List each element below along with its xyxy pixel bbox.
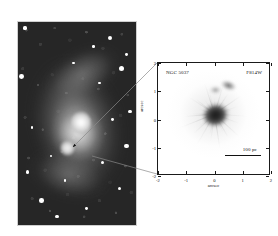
x-axis-title: arcsec [157, 183, 270, 188]
scale-bar-line [225, 155, 261, 156]
nuclear-knot [60, 140, 74, 156]
y-tick-label: 2 [149, 61, 156, 66]
wide-field-galaxy-image [17, 21, 137, 226]
x-tick-top [186, 63, 187, 66]
x-tick-top [215, 63, 216, 66]
y-tick-right [266, 91, 269, 92]
x-tick [186, 171, 187, 174]
y-tick [158, 148, 161, 149]
x-tick [243, 171, 244, 174]
field-star [125, 53, 128, 56]
y-tick-right [266, 176, 269, 177]
galaxy-nucleus [71, 111, 91, 133]
field-star [72, 62, 74, 64]
field-star [124, 144, 128, 148]
field-star [98, 82, 101, 85]
x-tick-top [243, 63, 244, 66]
y-tick-label: 0 [149, 117, 156, 122]
field-star [118, 187, 121, 190]
field-star [111, 118, 114, 121]
filter-name-label: F814W [246, 70, 262, 75]
y-tick-label: -1 [149, 145, 156, 150]
y-tick-right [266, 63, 269, 64]
y-tick [158, 176, 161, 177]
x-tick [158, 171, 159, 174]
y-axis-title: arcsec [139, 101, 144, 112]
x-tick [271, 171, 272, 174]
x-tick-label: 2 [270, 178, 272, 183]
scale-bar-label: 100 pc [243, 147, 257, 152]
y-tick-label: -2 [149, 174, 156, 179]
y-tick-label: 1 [149, 89, 156, 94]
field-star [128, 110, 132, 114]
y-tick-right [266, 148, 269, 149]
y-tick [158, 63, 161, 64]
y-tick [158, 91, 161, 92]
y-tick [158, 120, 161, 121]
x-tick-top [271, 63, 272, 66]
object-name-label: NGC 5037 [166, 70, 189, 75]
y-tick-right [266, 120, 269, 121]
field-star [92, 45, 94, 47]
x-tick [215, 171, 216, 174]
astronomy-figure: NGC 5037 F814W 100 pc -2-1012 -2-1012 ar… [0, 0, 278, 236]
field-star [39, 198, 44, 203]
hst-nuclear-inset-plot: NGC 5037 F814W 100 pc -2-1012 -2-1012 [157, 62, 270, 175]
field-star [23, 26, 26, 29]
